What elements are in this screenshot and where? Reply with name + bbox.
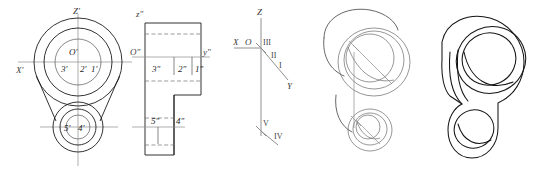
- front-point-3-label: 3': [60, 64, 69, 74]
- iso-bore-depth-large: [464, 52, 513, 85]
- iso-view-panel: [428, 0, 544, 176]
- iso-bore-depth-small: [458, 124, 491, 143]
- front-x-axis-label: X': [15, 65, 24, 75]
- iso-body-outline: [442, 16, 524, 158]
- octant-1-label: I: [279, 61, 282, 70]
- sketch-tick-large-2: [382, 74, 392, 84]
- octant-3-label: III: [263, 38, 271, 47]
- sketch-arc-lower-left: [336, 95, 352, 132]
- sketch-axis-diagonal-small: [356, 120, 380, 144]
- front-view-panel: Z' X' O' 3' 2' 1' 5' 4': [0, 0, 140, 176]
- side-outline: [145, 23, 201, 155]
- sketch-arc-left: [324, 38, 344, 76]
- side-origin-label: O": [130, 47, 140, 57]
- side-z-axis-label: z": [135, 9, 144, 19]
- octant-2-label: II: [271, 51, 277, 60]
- side-point-1-label: 1": [195, 64, 204, 74]
- axis-z-label: Z: [257, 7, 263, 17]
- front-origin-label: O': [69, 47, 78, 57]
- axis-x-label: X: [232, 37, 239, 47]
- side-point-4-label: 4": [176, 116, 185, 126]
- sketch-outer-ellipse-large: [338, 28, 410, 96]
- side-point-3-label: 3": [151, 64, 161, 74]
- front-point-5-label: 5': [64, 123, 72, 133]
- sketch-tick-large: [349, 41, 359, 51]
- side-point-2-label: 2": [178, 64, 187, 74]
- sketch-middle-ellipse-small: [353, 113, 387, 145]
- front-z-axis-label: Z': [73, 6, 81, 16]
- side-point-5-label: 5": [151, 116, 160, 126]
- front-point-1-label: 1': [91, 64, 99, 74]
- octant-5-label: V: [263, 119, 269, 128]
- sketch-bore-crescent-large: [348, 47, 394, 81]
- octant-4-label: IV: [274, 132, 283, 141]
- drawing-canvas: Z' X' O' 3' 2' 1' 5' 4' z" O" y" 3" 2" 1…: [0, 0, 544, 176]
- front-point-2-label: 2': [80, 64, 88, 74]
- iso-boss-outer-large: [446, 16, 537, 105]
- axis-origin-label: O: [245, 37, 252, 47]
- axis-y-label: Y: [287, 81, 293, 91]
- side-y-axis-label: y": [202, 47, 211, 57]
- sketch-middle-ellipse-large: [344, 31, 404, 89]
- sketch-view-panel: [318, 0, 438, 176]
- sketch-inner-ellipse-small: [356, 115, 380, 139]
- front-point-4-label: 4': [78, 123, 86, 133]
